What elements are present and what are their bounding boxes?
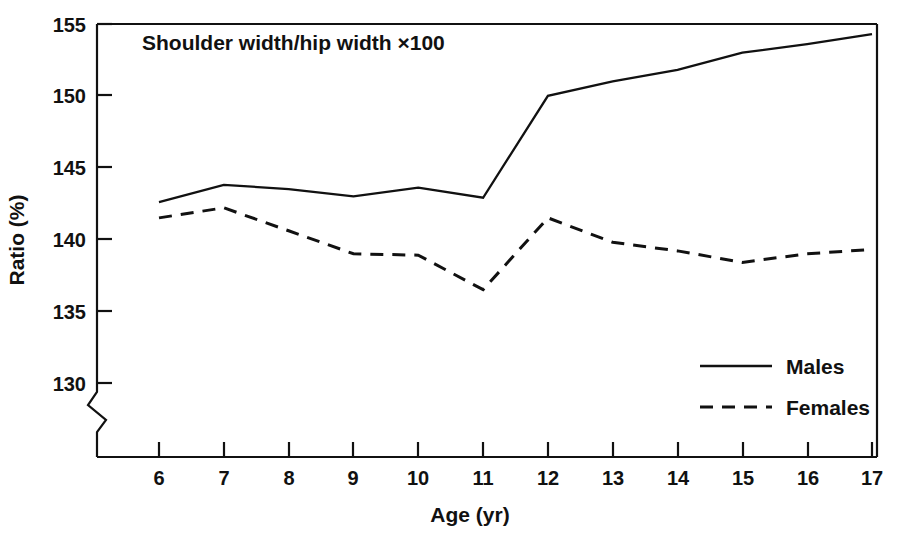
x-tick-label-6: 6 bbox=[153, 467, 164, 489]
y-axis-title: Ratio (%) bbox=[5, 195, 28, 286]
x-tick-label-8: 8 bbox=[283, 467, 294, 489]
y-tick-label-135: 135 bbox=[53, 301, 86, 323]
legend-label-females: Females bbox=[786, 396, 870, 419]
y-ticks bbox=[97, 24, 112, 383]
y-tick-label-150: 150 bbox=[53, 85, 86, 107]
x-axis-title: Age (yr) bbox=[430, 503, 509, 526]
x-tick-label-13: 13 bbox=[602, 467, 624, 489]
x-tick-labels: 6 7 8 9 10 11 12 13 14 15 16 17 bbox=[153, 467, 883, 489]
y-tick-label-140: 140 bbox=[53, 229, 86, 251]
x-tick-label-7: 7 bbox=[218, 467, 229, 489]
line-chart: 155 150 145 140 135 130 6 7 8 bbox=[0, 0, 901, 536]
x-tick-label-9: 9 bbox=[347, 467, 358, 489]
x-tick-label-12: 12 bbox=[537, 467, 559, 489]
plot-annotation: Shoulder width/hip width ×100 bbox=[142, 31, 445, 54]
x-tick-label-10: 10 bbox=[407, 467, 429, 489]
series-line-males bbox=[159, 34, 872, 202]
x-tick-label-14: 14 bbox=[667, 467, 690, 489]
y-tick-label-155: 155 bbox=[53, 14, 86, 36]
legend: Males Females bbox=[700, 355, 870, 419]
x-tick-label-15: 15 bbox=[732, 467, 754, 489]
y-tick-labels: 155 150 145 140 135 130 bbox=[53, 14, 86, 395]
axis-left bbox=[88, 24, 106, 457]
x-ticks bbox=[159, 442, 872, 457]
chart-figure: 155 150 145 140 135 130 6 7 8 bbox=[0, 0, 901, 536]
x-tick-label-11: 11 bbox=[472, 467, 493, 489]
series-line-females bbox=[159, 208, 872, 290]
legend-label-males: Males bbox=[786, 355, 844, 378]
y-tick-label-145: 145 bbox=[53, 157, 86, 179]
x-tick-label-17: 17 bbox=[861, 467, 883, 489]
plot-frame bbox=[88, 24, 877, 457]
x-tick-label-16: 16 bbox=[797, 467, 819, 489]
y-tick-label-130: 130 bbox=[53, 373, 86, 395]
